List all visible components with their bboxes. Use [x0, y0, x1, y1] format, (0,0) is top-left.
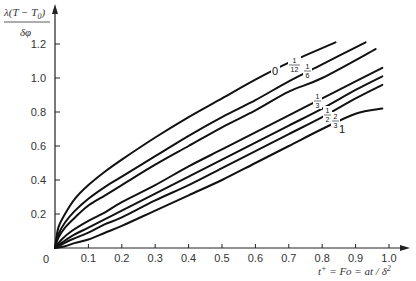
- curve-1-3: [55, 68, 382, 248]
- svg-text:λ(T − T0): λ(T − T0): [3, 6, 45, 21]
- svg-text:3: 3: [334, 122, 338, 129]
- y-tick-label: 0.8: [31, 106, 46, 118]
- y-tick-label: 1.0: [31, 72, 46, 84]
- svg-text:1: 1: [339, 123, 345, 135]
- curve-1-2: [55, 76, 382, 248]
- x-tick-label: 0.9: [348, 252, 363, 264]
- svg-text:δφ: δφ: [20, 26, 31, 38]
- curve-2-3: [55, 85, 382, 248]
- svg-text:0: 0: [272, 65, 278, 77]
- y-tick-label: 1.2: [31, 38, 46, 50]
- x-tick-label: 0.4: [181, 252, 196, 264]
- curve-1-12: [55, 42, 366, 248]
- svg-text:12: 12: [291, 66, 299, 73]
- x-axis-label: t+ = Fo = at / δ2: [318, 264, 391, 277]
- x-axis: [55, 245, 410, 251]
- svg-text:1: 1: [326, 107, 330, 114]
- svg-text:1: 1: [293, 57, 297, 64]
- y-tick-label: 0.4: [31, 174, 46, 186]
- y-axis-label: λ(T − T0) δφ: [3, 6, 50, 38]
- x-tick-label: 0.5: [214, 252, 229, 264]
- curve-label-0: 0: [271, 65, 280, 77]
- curves: [55, 42, 382, 248]
- curve-label-1: 1: [338, 123, 347, 135]
- svg-text:1: 1: [306, 63, 310, 70]
- x-ticks: 0.10.20.30.40.50.60.70.80.91.0: [81, 244, 397, 264]
- svg-text:2: 2: [334, 113, 338, 120]
- svg-text:2: 2: [326, 116, 330, 123]
- svg-text:3: 3: [316, 102, 320, 109]
- x-tick-label: 0.8: [315, 252, 330, 264]
- y-tick-label: 0.6: [31, 140, 46, 152]
- svg-text:1: 1: [316, 93, 320, 100]
- x-axis-arrow-icon: [400, 245, 410, 251]
- x-tick-label: 0.3: [148, 252, 163, 264]
- origin-label: 0: [43, 253, 49, 265]
- curve-label-1-12: 112: [288, 56, 301, 73]
- x-tick-label: 0.6: [248, 252, 263, 264]
- chart: λ(T − T0) δφ 0.20.40.60.81.01.2 0.10.20.…: [0, 0, 416, 281]
- y-axis: [52, 4, 58, 248]
- curve-1-6: [55, 49, 376, 248]
- x-tick-label: 1.0: [381, 252, 396, 264]
- curve-label-1-2: 12: [323, 106, 332, 123]
- y-axis-arrow-icon: [52, 4, 58, 14]
- svg-text:6: 6: [306, 72, 310, 79]
- x-tick-label: 0.1: [81, 252, 96, 264]
- y-ticks: 0.20.40.60.81.01.2: [31, 38, 60, 220]
- y-tick-label: 0.2: [31, 208, 46, 220]
- x-tick-label: 0.2: [114, 252, 129, 264]
- x-tick-label: 0.7: [281, 252, 296, 264]
- curve-label-1-6: 16: [303, 62, 312, 79]
- curve-label-1-3: 13: [313, 92, 322, 109]
